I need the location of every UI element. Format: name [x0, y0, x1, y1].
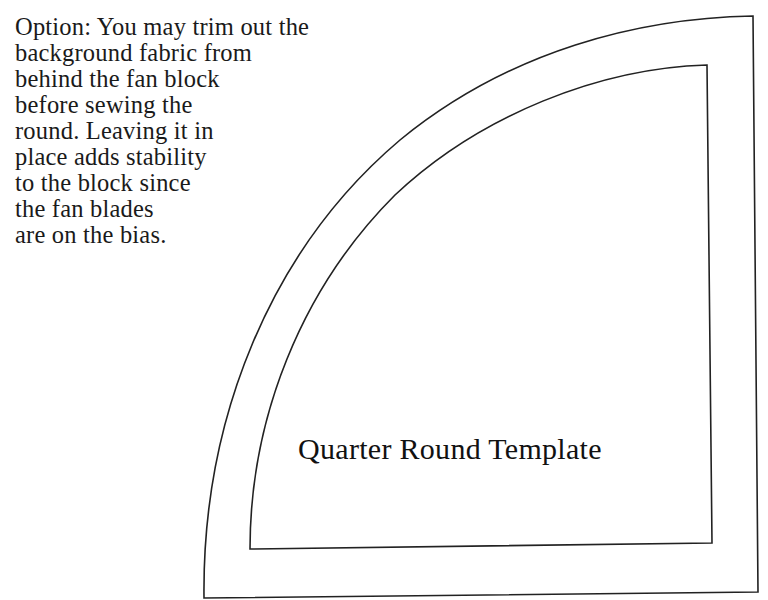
outer-cutting-line: [204, 16, 758, 598]
template-title: Quarter Round Template: [298, 432, 602, 466]
quarter-round-template-diagram: [0, 0, 768, 600]
inner-sewing-line: [250, 65, 712, 549]
